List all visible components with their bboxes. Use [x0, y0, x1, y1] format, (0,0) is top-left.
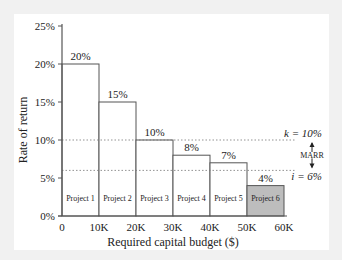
bar-category-label: Project 3	[140, 194, 169, 203]
x-tick-label: 0	[59, 221, 65, 233]
x-tick-label: 20K	[127, 221, 146, 233]
y-tick-label: 5%	[40, 172, 55, 184]
k-label: k = 10%	[284, 127, 322, 139]
bar-category-label: Project 5	[214, 194, 243, 203]
bar-3	[136, 140, 173, 216]
bar-category-label: Project 1	[66, 194, 95, 203]
bar-value-label: 10%	[144, 126, 164, 138]
bars-group: 20%Project 115%Project 210%Project 38%Pr…	[62, 50, 284, 216]
arrow-down-icon	[310, 163, 315, 168]
bar-value-label: 15%	[107, 88, 127, 100]
bar-value-label: 20%	[70, 50, 90, 62]
x-tick-label: 10K	[90, 221, 109, 233]
x-tick-label: 50K	[238, 221, 257, 233]
i-label: i = 6%	[291, 170, 322, 182]
x-tick-label: 40K	[201, 221, 220, 233]
y-tick-label: 0%	[40, 210, 55, 222]
step-bar-chart: 20%Project 115%Project 210%Project 38%Pr…	[0, 0, 342, 260]
x-tick-label: 30K	[164, 221, 183, 233]
y-tick-label: 10%	[35, 134, 55, 146]
arrow-up-icon	[310, 142, 315, 147]
bar-value-label: 8%	[184, 141, 199, 153]
bar-value-label: 4%	[258, 172, 273, 184]
bar-value-label: 7%	[221, 149, 236, 161]
x-axis-label: Required capital budget ($)	[107, 235, 239, 249]
y-tick-label: 15%	[35, 96, 55, 108]
y-tick-label: 25%	[35, 20, 55, 32]
bar-category-label: Project 4	[177, 194, 206, 203]
y-axis-label: Rate of return	[16, 97, 30, 164]
bar-category-label: Project 2	[103, 194, 132, 203]
bar-4	[173, 155, 210, 216]
x-tick-label: 60K	[275, 221, 294, 233]
y-tick-label: 20%	[35, 58, 55, 70]
bar-category-label: Project 6	[251, 194, 280, 203]
